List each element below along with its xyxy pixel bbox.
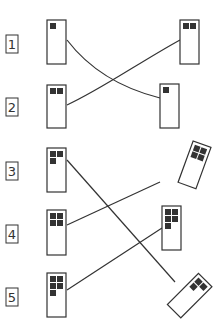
label-3: 3 — [8, 164, 16, 179]
label-2: 2 — [8, 100, 16, 115]
right-box-c — [178, 141, 211, 189]
connector-1 — [67, 40, 160, 98]
left-box-3 — [47, 148, 66, 192]
row-labels: 1 2 3 4 5 — [6, 35, 18, 306]
connector-3 — [67, 160, 175, 282]
matching-diagram: 1 2 3 4 5 — [0, 0, 217, 333]
left-box-4 — [47, 210, 66, 255]
left-box-5 — [47, 273, 66, 317]
connector-4 — [67, 182, 160, 225]
right-box-b — [160, 84, 179, 128]
right-box-a — [180, 20, 199, 64]
label-4: 4 — [8, 227, 16, 242]
right-box-d — [162, 206, 181, 250]
connector-5 — [67, 228, 162, 290]
label-5: 5 — [8, 290, 16, 305]
left-box-2 — [47, 85, 66, 128]
label-1: 1 — [8, 37, 16, 52]
left-box-1 — [47, 20, 66, 64]
